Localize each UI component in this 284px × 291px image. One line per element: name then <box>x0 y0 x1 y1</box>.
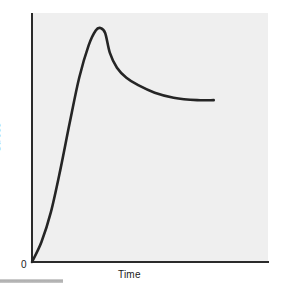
y-axis-line <box>31 13 33 263</box>
x-axis-line <box>31 261 269 263</box>
bottom-rule <box>0 279 63 283</box>
stress-time-figure: Stress Time 0 <box>0 0 284 291</box>
origin-tick-label: 0 <box>21 259 27 270</box>
plot-area <box>32 13 268 262</box>
y-axis-label: Stress <box>0 138 2 152</box>
x-axis-label: Time <box>118 269 141 280</box>
